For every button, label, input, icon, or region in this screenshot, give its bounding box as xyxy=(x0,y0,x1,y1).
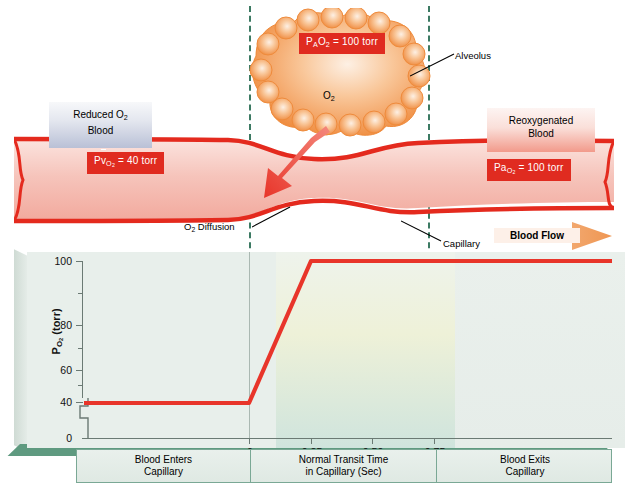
phase-caption-bar: Blood Enters Capillary Normal Transit Ti… xyxy=(76,449,612,483)
o2-diffusion-label: O2 Diffusion xyxy=(184,221,235,235)
caption-transit-line1: Normal Transit Time xyxy=(299,454,388,466)
alveolar-po2-text: PAO2 = 100 torr xyxy=(306,36,378,47)
alveolus-label: Alveolus xyxy=(455,50,491,61)
caption-exits-line2: Capillary xyxy=(500,466,550,478)
reduced-blood-line2: Blood xyxy=(49,124,152,137)
reduced-blood-line1: Reduced O2 xyxy=(49,108,152,124)
caption-enters-line2: Capillary xyxy=(135,466,192,478)
capillary-label: Capillary xyxy=(443,238,480,249)
arterial-po2-text: PaO2 = 100 torr xyxy=(494,162,564,173)
blood-flow-indicator: Blood Flow xyxy=(494,222,614,250)
caption-exits-line1: Blood Exits xyxy=(500,454,550,466)
o2-diffusion-arrow xyxy=(256,124,336,204)
figure-canvas: PAO2 = 100 torr O2 Alveolus xyxy=(0,0,626,501)
po2-vs-time-chart: PO2 (torr) 100 80 60 40 0 0 0.25 0.50 xyxy=(14,252,612,474)
venous-po2-chip: PvO2 = 40 torr xyxy=(87,152,164,174)
alveolus-leader-line xyxy=(410,52,460,78)
caption-cell-exits: Blood Exits Capillary xyxy=(437,450,613,482)
capillary-leader-line xyxy=(401,219,445,245)
o2-gas-label: O2 xyxy=(323,90,335,104)
alveolus-shape xyxy=(246,8,432,138)
blood-flow-label: Blood Flow xyxy=(494,228,580,243)
reox-blood-line1: Reoxygenated xyxy=(487,114,595,127)
reduced-blood-label: Reduced O2 Blood xyxy=(49,102,152,148)
caption-cell-enters: Blood Enters Capillary xyxy=(77,450,251,482)
po2-data-line xyxy=(14,252,612,452)
o2-diffusion-leader-line xyxy=(252,205,296,229)
arterial-po2-chip: PaO2 = 100 torr xyxy=(487,159,571,181)
caption-transit-line2: in Capillary (Sec) xyxy=(299,466,388,478)
reoxygenated-blood-label: Reoxygenated Blood xyxy=(487,108,595,152)
reox-blood-line2: Blood xyxy=(487,127,595,140)
venous-po2-text: PvO2 = 40 torr xyxy=(94,155,157,166)
caption-cell-transit: Normal Transit Time in Capillary (Sec) xyxy=(251,450,437,482)
caption-enters-line1: Blood Enters xyxy=(135,454,192,466)
alveolar-po2-chip: PAO2 = 100 torr xyxy=(299,33,385,54)
